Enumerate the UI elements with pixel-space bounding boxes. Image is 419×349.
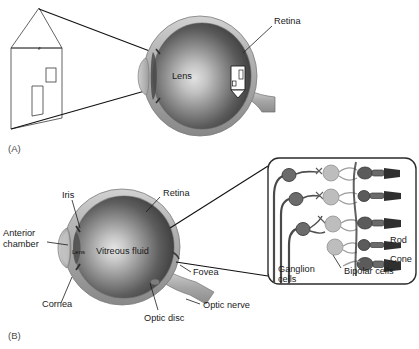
ganglion-soma — [282, 169, 296, 182]
photoreceptor-inner-segment — [372, 170, 384, 176]
label-anterior-chamber-line2: chamber — [3, 239, 39, 249]
label-lens-b: Lens — [72, 249, 85, 255]
label-retina-b: Retina — [163, 188, 190, 198]
photoreceptor-inner-segment — [370, 193, 384, 199]
label-ganglion-cells-line2: cells — [278, 274, 297, 284]
label-retina-a: Retina — [274, 16, 301, 26]
panel-tag-b: (B) — [8, 330, 21, 341]
bipolar-soma — [323, 189, 339, 205]
retinal-image-door — [239, 70, 243, 79]
bipolar-soma — [325, 216, 341, 232]
optic-disc-marker — [151, 279, 160, 285]
photoreceptor-soma — [358, 217, 373, 229]
bipolar-soma — [323, 165, 339, 181]
label-iris: Iris — [62, 190, 75, 200]
rod-inner-segment — [370, 243, 384, 248]
eye-anatomy-figure: Lens Retina (A) — [0, 0, 419, 349]
label-cornea: Cornea — [42, 299, 73, 309]
label-cone: Cone — [390, 254, 412, 264]
label-lens-a: Lens — [172, 71, 192, 81]
ganglion-soma — [289, 193, 303, 206]
retina-cell-inset: Rod Cone Bipolar cells Ganglion cells — [268, 158, 416, 290]
photoreceptor-soma — [358, 191, 370, 202]
bipolar-soma — [327, 239, 343, 255]
label-vitreous-fluid: Vitreous fluid — [96, 246, 149, 256]
panel-tag-a: (A) — [8, 143, 21, 154]
retinal-image-window — [233, 81, 237, 86]
label-optic-disc: Optic disc — [144, 313, 185, 323]
photoreceptor-inner-segment — [372, 220, 384, 226]
label-optic-nerve: Optic nerve — [203, 300, 250, 310]
label-rod: Rod — [390, 235, 407, 245]
ganglion-soma — [296, 223, 310, 236]
label-ganglion-cells-line1: Ganglion — [278, 264, 315, 274]
photoreceptor-soma — [358, 240, 370, 251]
label-bipolar-cells: Bipolar cells — [344, 266, 394, 276]
photoreceptor-soma — [358, 167, 373, 179]
label-anterior-chamber-line1: Anterior — [3, 228, 35, 238]
